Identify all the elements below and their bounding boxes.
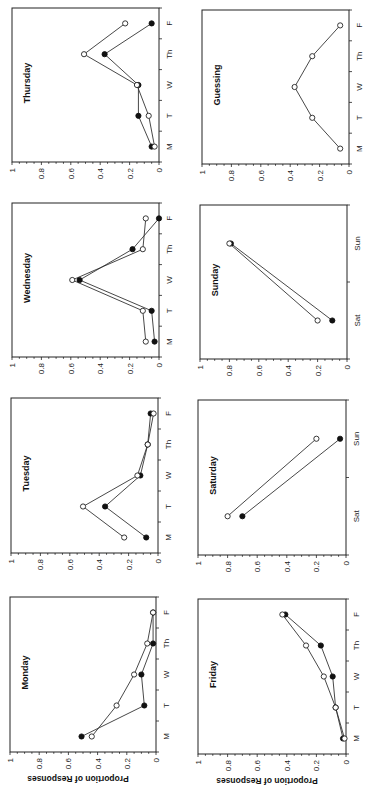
series-line-filled	[105, 23, 152, 146]
value-tick-label: 0	[342, 560, 351, 565]
data-point-filled	[150, 641, 155, 646]
data-point-open	[314, 436, 319, 441]
data-point-filled	[142, 703, 147, 708]
data-point-open	[315, 318, 320, 323]
category-tick-label: F	[162, 610, 171, 615]
data-point-open	[151, 411, 156, 416]
value-tick-label: 0.2	[312, 759, 321, 771]
value-tick-label: 0.2	[314, 364, 323, 376]
data-point-open	[225, 514, 230, 519]
category-tick-label: Th	[164, 440, 173, 449]
chart-panel-monday: 00.20.40.60.81MTWThFMondayProportion of …	[6, 597, 171, 784]
category-tick-label: T	[352, 705, 361, 710]
value-tick-label: 1	[194, 560, 203, 565]
category-tick-label: T	[355, 115, 364, 120]
category-tick-label: M	[165, 143, 174, 150]
value-tick-label: 0.2	[125, 558, 134, 570]
category-tick-label: Sun	[353, 236, 362, 250]
category-tick-label: W	[162, 670, 171, 678]
data-point-open	[338, 23, 343, 28]
data-point-filled	[149, 21, 154, 26]
value-tick-label: 0.6	[67, 167, 76, 179]
chart-panel-guessing: 00.20.40.60.81MTWThFGuessing	[198, 10, 364, 181]
data-point-open	[333, 705, 338, 710]
value-tick-label: 0.8	[224, 759, 233, 771]
value-tick-label: 0.8	[37, 362, 46, 374]
data-point-open	[145, 442, 150, 447]
panel-title: Monday	[20, 655, 30, 689]
category-tick-label: F	[352, 612, 361, 617]
series-line-filled	[242, 439, 340, 517]
value-tick-label: 0.4	[283, 759, 292, 771]
chart-panel-friday: 00.20.40.60.81MTWThFFridayProportion of …	[194, 599, 361, 786]
data-point-open	[114, 703, 119, 708]
category-tick-label: F	[165, 216, 174, 221]
data-point-filled	[77, 277, 82, 282]
value-tick-label: 0.2	[126, 362, 135, 374]
value-tick-label: 0.6	[67, 362, 76, 374]
category-tick-label: Th	[165, 245, 174, 254]
data-point-filled	[240, 514, 245, 519]
panel-title: Wednesday	[22, 253, 32, 303]
data-point-open	[134, 82, 139, 87]
data-point-filled	[144, 535, 149, 540]
category-tick-label: F	[164, 411, 173, 416]
data-point-open	[70, 277, 75, 282]
series-line-filled	[231, 244, 332, 321]
data-point-open	[310, 54, 315, 59]
category-tick-label: Sat	[352, 509, 361, 522]
category-tick-label: T	[165, 113, 174, 118]
data-point-open	[146, 113, 151, 118]
series-line-filled	[105, 414, 151, 538]
value-tick-label: 0.8	[36, 558, 45, 570]
data-point-open	[132, 672, 137, 677]
value-tick-label: 0.6	[66, 558, 75, 570]
chart-panel-sunday: 00.20.40.60.81SatSunSunday	[196, 205, 362, 376]
series-line-open	[229, 244, 317, 321]
category-tick-label: F	[355, 23, 364, 28]
value-tick-label: 1	[7, 558, 16, 563]
value-tick-label: 0.8	[224, 560, 233, 572]
value-tick-label: 0.8	[35, 757, 44, 769]
data-point-open	[303, 643, 308, 648]
plot-frame	[202, 10, 349, 164]
chart-panel-wednesday: 00.20.40.60.81MTWThFWednesday	[8, 203, 174, 374]
data-point-filled	[152, 339, 157, 344]
data-point-filled	[139, 672, 144, 677]
category-tick-label: M	[162, 733, 171, 740]
category-tick-label: F	[165, 21, 174, 26]
category-tick-label: Th	[162, 639, 171, 648]
data-point-filled	[79, 734, 84, 739]
figure-canvas: 00.20.40.60.81MTWThFThursday00.20.40.60.…	[0, 0, 367, 791]
series-line-open	[72, 218, 146, 341]
data-point-open	[280, 612, 285, 617]
data-point-open	[227, 241, 232, 246]
value-tick-label: 0	[152, 757, 161, 762]
value-tick-label: 0.2	[126, 167, 135, 179]
value-tick-label: 1	[194, 759, 203, 764]
category-tick-label: Sun	[352, 432, 361, 446]
data-point-open	[80, 504, 85, 509]
panel-title: Friday	[208, 661, 218, 688]
category-tick-label: T	[164, 504, 173, 509]
value-tick-label: 1	[8, 362, 17, 367]
data-point-open	[145, 641, 150, 646]
category-tick-label: W	[355, 83, 364, 91]
value-tick-label: 0.6	[257, 169, 266, 181]
chart-panel-tuesday: 00.20.40.60.81MTWThFTuesday	[7, 398, 173, 570]
value-tick-label: 0	[155, 167, 164, 172]
series-line-open	[295, 25, 341, 148]
category-tick-label: W	[165, 276, 174, 284]
value-tick-label: 0.4	[284, 364, 293, 376]
data-point-open	[122, 535, 127, 540]
value-tick-label: 0	[343, 364, 352, 369]
category-tick-label: W	[352, 672, 361, 680]
y-axis-label: Proportion of Responses	[27, 774, 129, 784]
value-tick-label: 0.4	[283, 560, 292, 572]
data-point-filled	[149, 308, 154, 313]
data-point-open	[321, 674, 326, 679]
data-point-filled	[318, 643, 323, 648]
category-tick-label: M	[355, 145, 364, 152]
data-point-open	[150, 610, 155, 615]
category-tick-label: W	[164, 471, 173, 479]
